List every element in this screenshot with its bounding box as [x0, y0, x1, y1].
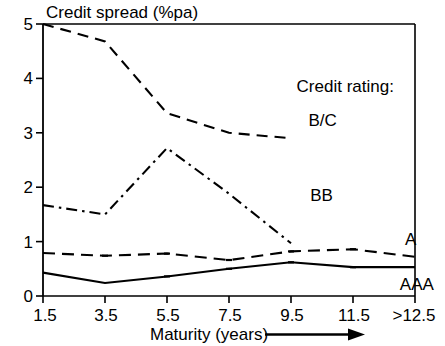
- x-tick-label: 9.5: [280, 306, 304, 325]
- series-label-a: A: [405, 230, 417, 249]
- y-axis-ticks: [36, 24, 43, 296]
- credit-spread-line-chart: 5 4 3 2 1 0 1.5 3.5 5.5 7.5 9.5 11.5 >12…: [0, 0, 445, 346]
- series-line-bc: [43, 24, 291, 138]
- x-tick-label: 5.5: [156, 306, 180, 325]
- series-label-aaa: AAA: [400, 275, 435, 294]
- plot-frame: [43, 24, 415, 296]
- series-label-bb: BB: [310, 186, 333, 205]
- x-tick-label: >12.5: [392, 306, 435, 325]
- y-tick-labels: 5 4 3 2 1 0: [24, 15, 33, 306]
- series-label-bc: B/C: [309, 111, 337, 130]
- x-tick-label: 11.5: [338, 306, 370, 325]
- legend-title: Credit rating:: [297, 77, 394, 96]
- x-tick-label: 3.5: [94, 306, 118, 325]
- x-axis-ticks: [43, 296, 415, 303]
- x-tick-labels: 1.5 3.5 5.5 7.5 9.5 11.5 >12.5: [33, 306, 435, 325]
- arrow-right-icon: [265, 329, 365, 341]
- x-tick-label: 1.5: [33, 306, 57, 325]
- x-axis-title: Maturity (years): [150, 325, 268, 344]
- series-point-markers: [102, 249, 356, 276]
- y-tick-label: 0: [24, 287, 33, 306]
- series-line-aaa: [43, 262, 415, 283]
- y-tick-label: 2: [24, 178, 33, 197]
- chart-figure: 5 4 3 2 1 0 1.5 3.5 5.5 7.5 9.5 11.5 >12…: [0, 0, 445, 346]
- y-tick-label: 4: [24, 69, 33, 88]
- y-axis-title: Credit spread (%pa): [46, 3, 198, 22]
- series-line-bb: [43, 148, 291, 243]
- y-tick-label: 3: [24, 124, 33, 143]
- x-tick-label: 7.5: [218, 306, 242, 325]
- series-line-a: [43, 249, 415, 260]
- y-tick-label: 1: [24, 233, 33, 252]
- y-tick-label: 5: [24, 15, 33, 34]
